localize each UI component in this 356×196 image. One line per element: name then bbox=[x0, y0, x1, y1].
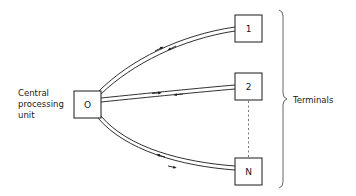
terminal-n-label: N bbox=[245, 167, 252, 177]
terminal-1-label: 1 bbox=[246, 24, 252, 34]
central-unit-label: O bbox=[84, 100, 91, 110]
connection-o-to-2 bbox=[101, 85, 235, 102]
terminals-group-label: Terminals bbox=[292, 95, 334, 105]
cpu-label: Central processing unit bbox=[18, 88, 67, 120]
terminal-2-label: 2 bbox=[246, 82, 252, 92]
connection-o-to-1 bbox=[99, 27, 235, 94]
terminals-brace bbox=[279, 10, 287, 188]
terminal-n-node[interactable]: N bbox=[235, 158, 262, 185]
terminal-1-node[interactable]: 1 bbox=[235, 15, 262, 42]
central-unit-node[interactable]: O bbox=[74, 91, 101, 118]
terminal-2-node[interactable]: 2 bbox=[235, 73, 262, 100]
star-network-diagram: Central processing unit O 1 2 bbox=[0, 0, 356, 196]
connection-o-to-n bbox=[98, 116, 235, 170]
